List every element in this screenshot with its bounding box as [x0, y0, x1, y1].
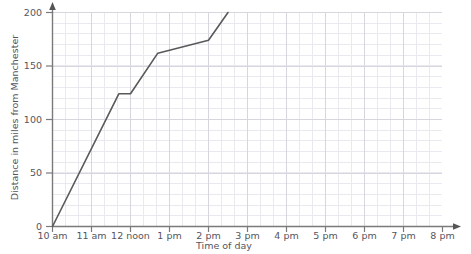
distance-time-graph: 200 150 100 50 0 10 am 11 am 12 noon 1 p… — [0, 0, 471, 254]
data-series-line — [0, 0, 471, 254]
y-axis-title: Distance in miles from Manchester — [9, 28, 20, 208]
journey-polyline — [53, 13, 229, 227]
x-tick-label-8pm: 8 pm — [418, 230, 468, 241]
y-tick-label-200: 200 — [2, 7, 42, 18]
x-axis-title: Time of day — [196, 240, 252, 251]
